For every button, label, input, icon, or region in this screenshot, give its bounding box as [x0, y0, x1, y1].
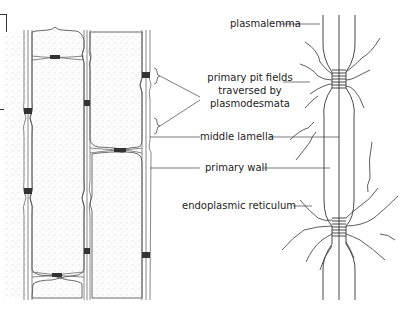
cell-wall-diagram — [0, 0, 409, 316]
cell-tissue — [4, 27, 142, 298]
label-primary-wall: primary wall — [205, 161, 267, 174]
label-middle-lamella: middle lamella — [200, 130, 274, 143]
label-pit-fields-line3: plasmodesmata — [190, 97, 310, 110]
leader-lines — [150, 24, 339, 206]
label-pit-fields-line2: traversed by — [190, 84, 310, 97]
wall-detail — [323, 15, 355, 300]
label-plasmalemma: plasmalemma — [230, 17, 301, 30]
label-pit-fields: primary pit fields traversed by plasmode… — [190, 71, 310, 110]
pit-field-brackets — [154, 68, 160, 134]
label-endoplasmic-reticulum: endoplasmic reticulum — [182, 199, 296, 212]
label-pit-fields-line1: primary pit fields — [190, 71, 310, 84]
